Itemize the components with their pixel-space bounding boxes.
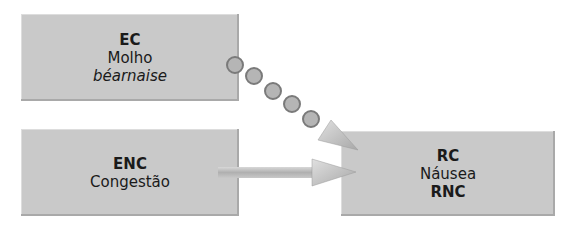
dotted-connector-ec-to-rc	[227, 57, 358, 150]
solid-arrow-enc-to-rc	[218, 159, 356, 186]
dot-icon	[284, 96, 300, 112]
dot-icon	[303, 111, 319, 127]
dot-icon	[265, 83, 281, 99]
arrowhead-icon	[318, 120, 358, 150]
dot-icon	[246, 68, 262, 84]
connector-layer	[0, 0, 575, 234]
arrow-shaft	[218, 167, 316, 178]
arrowhead-icon	[312, 159, 356, 186]
dot-icon	[227, 57, 243, 73]
